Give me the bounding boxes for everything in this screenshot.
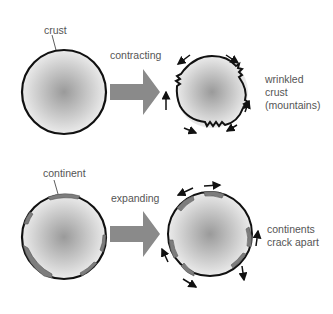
- result-line-2: crust: [265, 86, 320, 99]
- result-line-2: crack apart: [267, 236, 319, 249]
- earth-contraction-expansion-diagram: crust contracting wrinkled crust (mounta…: [0, 0, 333, 314]
- contracted-earth: [166, 55, 249, 133]
- original-earth-top: [22, 35, 106, 134]
- contracting-arrow-icon: [110, 69, 160, 115]
- expanded-earth: [162, 185, 258, 287]
- contracting-label: contracting: [110, 49, 161, 62]
- diagram-canvas: [0, 0, 333, 314]
- continents-crack-label: continents crack apart: [267, 223, 319, 249]
- expanding-label: expanding: [111, 192, 159, 205]
- continent-label: continent: [43, 167, 86, 180]
- result-line-1: wrinkled: [265, 73, 320, 86]
- result-line-3: (mountains): [265, 99, 320, 112]
- result-line-1: continents: [267, 223, 319, 236]
- expanding-arrow-icon: [110, 211, 160, 257]
- continent-leader-line: [54, 180, 58, 194]
- crust-label: crust: [44, 24, 67, 37]
- original-earth-bottom: [22, 180, 106, 279]
- wrinkled-crust-label: wrinkled crust (mountains): [265, 73, 320, 112]
- crust-leader-line: [52, 35, 56, 50]
